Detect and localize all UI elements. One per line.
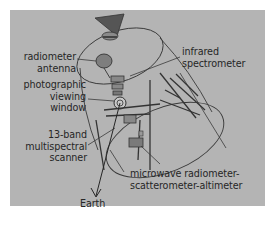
- label-line: photographic: [24, 79, 87, 91]
- label-infrared-spectrometer: infrared spectrometer: [182, 46, 245, 69]
- label-earth: Earth: [80, 198, 105, 210]
- label-line: radiometer: [24, 51, 76, 63]
- label-multispectral-scanner: 13-band multispectral scanner: [25, 129, 87, 164]
- label-line: antenna: [24, 63, 76, 75]
- label-line: multispectral: [25, 141, 87, 153]
- label-microwave-radiometer-scatterometer-altimeter: microwave radiometer- scatterometer-alti…: [130, 168, 242, 191]
- label-line: microwave radiometer-: [130, 168, 242, 180]
- label-line: spectrometer: [182, 58, 245, 70]
- label-line: scatterometer-altimeter: [130, 180, 242, 192]
- label-line: 13-band: [25, 129, 87, 141]
- label-line: infrared: [182, 46, 245, 58]
- label-radiometer-antenna: radiometer antenna: [24, 51, 76, 74]
- label-line: viewing: [24, 91, 87, 103]
- label-line: window: [24, 102, 87, 114]
- label-line: scanner: [25, 152, 87, 164]
- label-photographic-viewing-window: photographic viewing window: [24, 79, 87, 114]
